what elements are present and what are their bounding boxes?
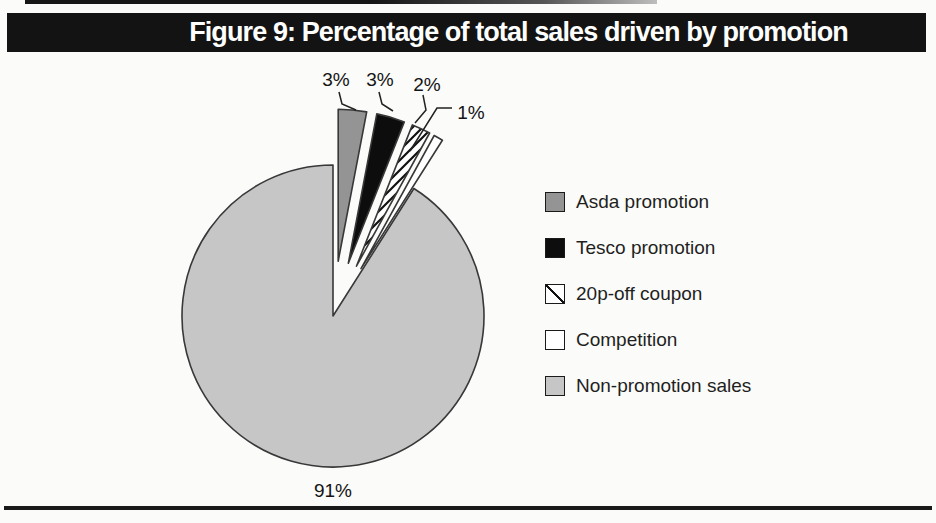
slice-value-label-0: 3% xyxy=(322,69,350,90)
legend-swatch-tesco xyxy=(545,238,565,258)
legend-label: Non-promotion sales xyxy=(576,375,751,397)
leader-line-1 xyxy=(379,92,393,111)
legend: Asda promotion Tesco promotion 20p-off c… xyxy=(545,192,751,396)
slice-value-label-4: 91% xyxy=(314,480,352,501)
legend-swatch-asda xyxy=(545,192,565,212)
slice-value-label-1: 3% xyxy=(366,69,394,90)
bottom-rule xyxy=(4,506,932,510)
legend-item-tesco-promotion: Tesco promotion xyxy=(545,238,751,258)
legend-label: 20p-off coupon xyxy=(576,283,702,305)
legend-swatch-non-promotion xyxy=(545,376,565,396)
pie-slices-group xyxy=(182,109,484,467)
pie-slice-non-promotion-sales xyxy=(182,165,484,467)
legend-label: Tesco promotion xyxy=(576,237,715,259)
legend-label: Competition xyxy=(576,329,677,351)
legend-swatch-competition xyxy=(545,330,565,350)
legend-item-non-promotion-sales: Non-promotion sales xyxy=(545,376,751,396)
figure-page: Figure 9: Percentage of total sales driv… xyxy=(0,0,936,523)
slice-value-label-2: 2% xyxy=(413,74,441,95)
leader-line-0 xyxy=(339,92,356,110)
legend-label: Asda promotion xyxy=(576,191,709,213)
legend-item-asda-promotion: Asda promotion xyxy=(545,192,751,212)
slice-value-label-3: 1% xyxy=(457,102,485,123)
leader-line-2 xyxy=(415,95,426,123)
legend-item-competition: Competition xyxy=(545,330,751,350)
pie-chart-svg: 3%3%2%1%91% xyxy=(0,0,936,523)
legend-item-20p-off-coupon: 20p-off coupon xyxy=(545,284,751,304)
legend-swatch-coupon xyxy=(545,284,565,304)
